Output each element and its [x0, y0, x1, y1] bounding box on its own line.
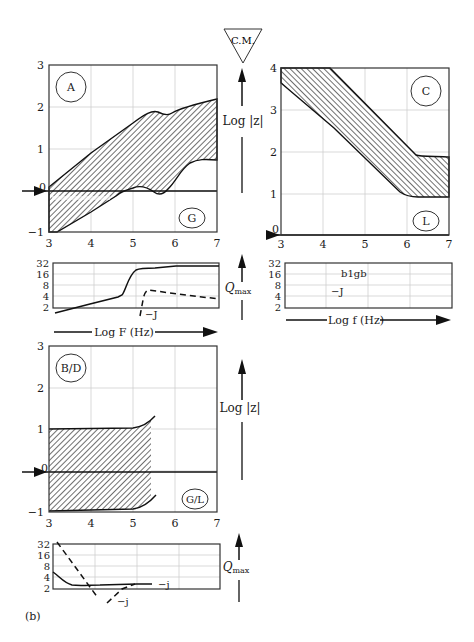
- panel-bd-label-gl: G/L: [186, 494, 204, 505]
- panel-c: C L 4 3 2 1 0 3 4 5 6 7: [266, 62, 453, 251]
- right-arrow-icon: [203, 327, 218, 337]
- panel-a-ytick: 0: [39, 181, 46, 194]
- panel-bd-label-bd: B/D: [61, 362, 82, 375]
- freq-label-left: Log F (Hz): [94, 326, 154, 339]
- right-arrow-icon: [436, 315, 451, 325]
- qmax-axis-top: Qmax: [225, 254, 252, 320]
- cm-indicator: C.M.: [224, 29, 262, 63]
- qmax-bd-annotation-2: −j: [117, 596, 128, 607]
- qmax-bd-annotation-1: −j: [158, 579, 169, 590]
- panel-a-xtick: 3: [46, 237, 53, 250]
- panel-bd-ytick: 3: [37, 340, 44, 353]
- panel-c-ytick: 1: [270, 188, 277, 201]
- panel-bd-xtick: 6: [172, 517, 179, 530]
- qmax-a-ytick: 16: [36, 269, 49, 280]
- logz-label: Log |z|: [222, 114, 263, 128]
- panel-bd-ytick: 2: [37, 382, 44, 395]
- panel-c-ytick: 0: [272, 223, 279, 236]
- qmax-c-ytick: 32: [268, 258, 281, 269]
- panel-bd-ytick: 0: [41, 462, 48, 475]
- panel-c-xtick: 5: [362, 238, 369, 251]
- qmax-strip-a: 32 16 8 4 2 −J Log F (Hz): [36, 258, 219, 339]
- panel-bd-xtick: 7: [214, 517, 221, 530]
- panel-c-xtick: 7: [446, 238, 453, 251]
- qmax-a-ytick: 2: [43, 302, 49, 313]
- cm-label: C.M.: [231, 35, 255, 46]
- qmax-c-ytick: 16: [268, 269, 281, 280]
- qmax-a-ytick: 4: [43, 291, 49, 302]
- qmax-strip-bd: 32 16 8 4 2 −j −j: [37, 539, 220, 607]
- qmax-label: Qmax: [225, 281, 252, 296]
- qmax-a-ytick: 8: [43, 280, 49, 291]
- panel-a-xtick: 4: [88, 237, 95, 250]
- panel-bd-xtick: 5: [130, 517, 137, 530]
- panel-a-ytick: 3: [37, 59, 44, 72]
- panel-bd-xtick: 3: [46, 517, 53, 530]
- qmax-label-bottom: Qmax: [223, 560, 250, 575]
- panel-bd-ytick: −1: [28, 506, 44, 519]
- up-arrow-icon: [238, 254, 246, 268]
- panel-c-xtick: 6: [404, 238, 411, 251]
- logz-axis-bottom: Log |z|: [219, 359, 260, 480]
- panel-a-xtick: 6: [172, 237, 179, 250]
- panel-c-label-c: C: [422, 85, 430, 98]
- panel-a-xtick: 5: [130, 237, 137, 250]
- panel-c-ytick: 4: [270, 62, 277, 75]
- qmax-bd-ytick: 8: [44, 561, 50, 572]
- qmax-c-ytick: 8: [275, 280, 281, 291]
- qmax-a-annotation: −J: [145, 309, 157, 320]
- qmax-strip-c: 32 16 8 4 2 b1gb −J Log f (Hz): [268, 258, 452, 327]
- panel-bd-xtick: 4: [88, 517, 95, 530]
- panel-c-xtick: 3: [278, 238, 285, 251]
- up-arrow-icon: [238, 68, 246, 82]
- qmax-c-ytick: 4: [275, 291, 281, 302]
- qmax-bd-ytick: 4: [44, 572, 50, 583]
- panel-bd-ytick: 1: [37, 423, 44, 436]
- panel-a: A G 3 2 1 0 −1 3 4 5 6 7: [22, 59, 221, 250]
- logz-label-bottom: Log |z|: [219, 401, 260, 415]
- panel-c-label-l: L: [422, 215, 430, 228]
- panel-bd-band: [49, 416, 155, 511]
- qmax-bd-ytick: 16: [37, 550, 50, 561]
- panel-a-ytick: 2: [37, 101, 44, 114]
- up-arrow-icon: [238, 359, 246, 374]
- up-arrow-icon: [235, 533, 243, 547]
- panel-a-xtick: 7: [214, 237, 221, 250]
- panel-c-ytick: 2: [270, 146, 277, 159]
- freq-label-right: Log f (Hz): [328, 314, 384, 327]
- panel-c-xtick: 4: [320, 238, 327, 251]
- qmax-bd-ytick: 32: [37, 539, 50, 550]
- panel-label: (b): [25, 610, 41, 623]
- panel-c-ytick: 3: [270, 104, 277, 117]
- figure-canvas: A G 3 2 1 0 −1 3 4 5 6 7 C.M. Log |z|: [0, 0, 474, 642]
- qmax-c-annotation-1: b1gb: [341, 268, 367, 279]
- panel-a-label-g: G: [188, 212, 197, 225]
- panel-a-ytick: 1: [37, 143, 44, 156]
- qmax-c-ytick: 2: [275, 302, 281, 313]
- qmax-bd-ytick: 2: [44, 583, 50, 594]
- qmax-c-annotation-2: −J: [331, 286, 343, 297]
- logz-axis-top: Log |z|: [222, 68, 263, 193]
- qmax-a-solid-curve: [55, 266, 219, 313]
- panel-bd: B/D G/L 3 2 1 0 −1 3 4 5 6 7: [22, 340, 221, 530]
- panel-a-ytick: −1: [28, 226, 44, 239]
- panel-a-label-a: A: [66, 81, 76, 94]
- qmax-axis-bottom: Qmax: [223, 533, 250, 602]
- qmax-a-ytick: 32: [36, 258, 49, 269]
